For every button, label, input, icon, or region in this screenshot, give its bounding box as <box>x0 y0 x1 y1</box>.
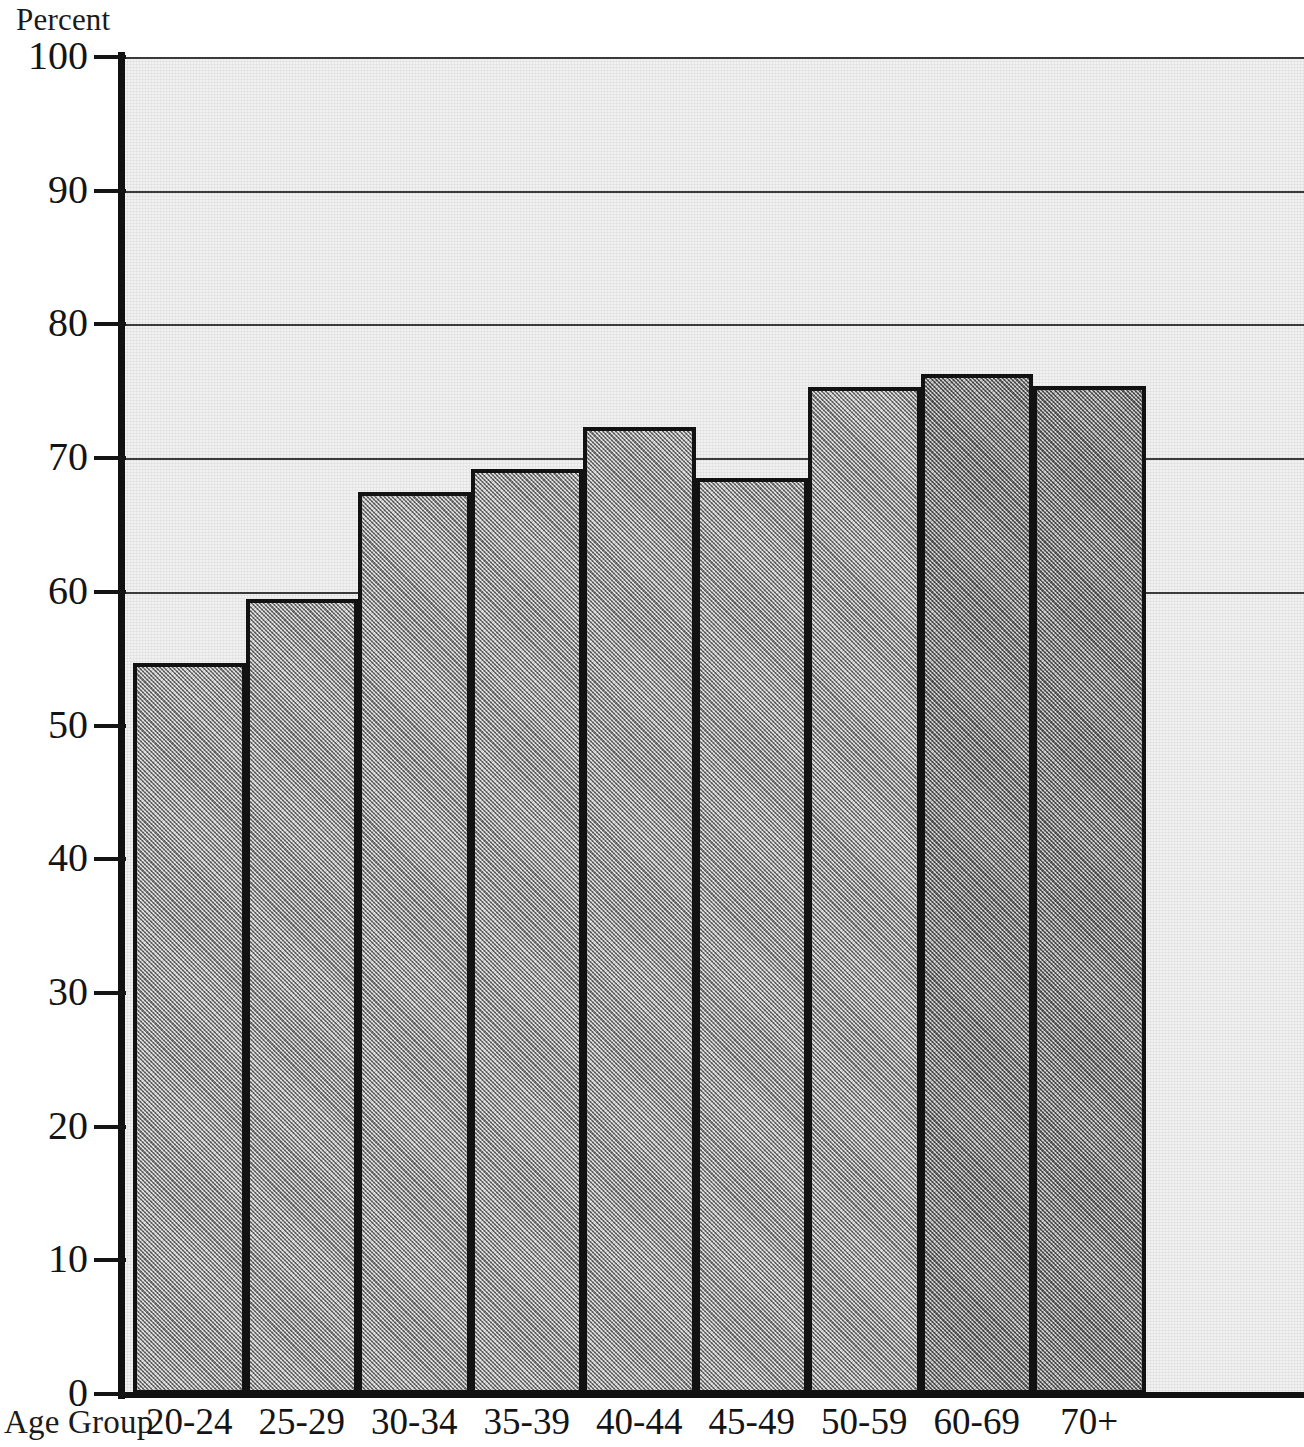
x-category-label-40-44: 40-44 <box>583 1402 696 1442</box>
bar-45-49[interactable] <box>696 478 809 1394</box>
y-tick-label-60: 60 <box>48 571 88 611</box>
y-tick-label-50: 50 <box>48 705 88 745</box>
bar-50-59[interactable] <box>808 387 921 1394</box>
gridline-80 <box>124 324 1304 326</box>
y-tick-mark-30 <box>94 991 126 995</box>
x-category-label-20-24: 20-24 <box>133 1402 246 1442</box>
gridline-90 <box>124 191 1304 193</box>
bar-20-24[interactable] <box>133 663 246 1394</box>
gridline-100 <box>124 57 1304 59</box>
x-category-label-50-59: 50-59 <box>808 1402 921 1442</box>
y-tick-label-80: 80 <box>48 303 88 343</box>
y-tick-mark-60 <box>94 590 126 594</box>
y-tick-mark-10 <box>94 1258 126 1262</box>
bar-30-34[interactable] <box>358 492 471 1394</box>
y-tick-mark-70 <box>94 456 126 460</box>
x-category-label-25-29: 25-29 <box>246 1402 359 1442</box>
bar-60-69[interactable] <box>921 374 1034 1394</box>
y-tick-label-0: 0 <box>68 1373 88 1413</box>
y-tick-label-30: 30 <box>48 972 88 1012</box>
y-tick-label-10: 10 <box>48 1239 88 1279</box>
y-tick-mark-0 <box>94 1392 126 1396</box>
y-tick-mark-80 <box>94 322 126 326</box>
plot-area <box>124 57 1304 1394</box>
y-tick-label-70: 70 <box>48 437 88 477</box>
x-category-label-70+: 70+ <box>1033 1402 1146 1442</box>
y-tick-label-90: 90 <box>48 170 88 210</box>
bar-40-44[interactable] <box>583 427 696 1394</box>
x-category-label-60-69: 60-69 <box>921 1402 1034 1442</box>
y-tick-mark-40 <box>94 857 126 861</box>
y-tick-mark-90 <box>94 189 126 193</box>
y-tick-mark-100 <box>94 55 126 59</box>
y-tick-label-100: 100 <box>28 36 88 76</box>
bar-chart-figure: Percent Age Group 0102030405060708090100… <box>0 0 1304 1447</box>
x-axis-line <box>118 1392 1304 1398</box>
bar-70+[interactable] <box>1033 386 1146 1394</box>
x-category-label-35-39: 35-39 <box>471 1402 584 1442</box>
x-category-label-30-34: 30-34 <box>358 1402 471 1442</box>
y-tick-label-40: 40 <box>48 838 88 878</box>
bar-35-39[interactable] <box>471 469 584 1394</box>
y-tick-mark-50 <box>94 724 126 728</box>
bar-25-29[interactable] <box>246 599 359 1395</box>
y-tick-mark-20 <box>94 1125 126 1129</box>
y-tick-label-20: 20 <box>48 1106 88 1146</box>
x-category-label-45-49: 45-49 <box>696 1402 809 1442</box>
